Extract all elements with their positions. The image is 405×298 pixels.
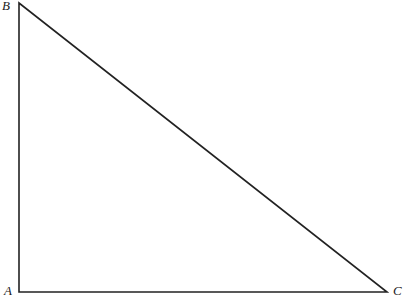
vertex-label-b: B [2,0,10,12]
vertex-label-a: A [4,284,12,297]
triangle-abc [19,3,387,292]
triangle-figure [0,0,405,298]
vertex-label-c: C [393,284,402,297]
